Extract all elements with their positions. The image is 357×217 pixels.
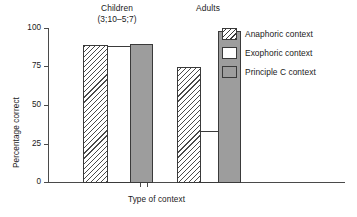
chart-legend: Anaphoric context Exophoric context Prin… xyxy=(222,24,356,81)
bar-children-exophoric xyxy=(107,46,131,183)
white-swatch-icon xyxy=(222,47,237,59)
bar-chart-figure: 100 75 50 25 0 Percentage correct Type o… xyxy=(0,0,357,217)
legend-item-anaphoric: Anaphoric context xyxy=(222,24,356,43)
y-axis-tick-100 xyxy=(44,28,48,29)
y-axis-tick-label-50: 50 xyxy=(19,101,41,110)
gray-swatch-icon xyxy=(222,66,237,78)
y-axis-title: Percentage correct xyxy=(13,97,22,168)
legend-label-principle-c: Principle C context xyxy=(245,67,316,77)
legend-label-anaphoric: Anaphoric context xyxy=(245,29,313,39)
group-label-adults: Adults xyxy=(168,4,248,13)
y-axis-tick-label-75: 75 xyxy=(19,62,41,71)
y-axis-tick-label-25: 25 xyxy=(19,140,41,149)
bar-children-anaphoric xyxy=(83,45,108,183)
hatched-swatch-icon xyxy=(222,28,237,40)
y-axis-tick-label-0: 0 xyxy=(19,178,41,187)
legend-label-exophoric: Exophoric context xyxy=(245,48,312,58)
group-label-children-line2: (3;10–5;7) xyxy=(77,15,157,24)
y-axis-tick-75 xyxy=(44,66,48,67)
legend-item-exophoric: Exophoric context xyxy=(222,43,356,62)
bar-children-principle-c xyxy=(130,44,153,183)
y-axis-tick-25 xyxy=(44,144,48,145)
y-axis-line xyxy=(48,28,49,183)
y-axis-tick-label-100: 100 xyxy=(19,24,41,33)
bar-adults-anaphoric xyxy=(177,67,201,183)
x-axis-title: Type of context xyxy=(128,196,185,205)
y-axis-tick-50 xyxy=(44,105,48,106)
bar-adults-exophoric xyxy=(200,131,219,183)
legend-item-principle-c: Principle C context xyxy=(222,62,356,81)
group-label-children-line1: Children xyxy=(77,4,157,13)
